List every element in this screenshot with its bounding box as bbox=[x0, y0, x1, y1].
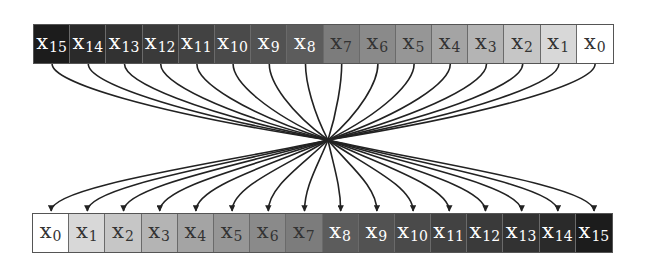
bottom-cell: x8 bbox=[323, 214, 359, 252]
cell-index: 9 bbox=[378, 229, 387, 243]
bottom-cell: x6 bbox=[250, 214, 286, 252]
cell-label: x bbox=[40, 221, 52, 242]
bottom-cell: x13 bbox=[503, 214, 539, 252]
cell-index: 15 bbox=[591, 229, 609, 243]
bottom-cell: x9 bbox=[359, 214, 395, 252]
connection-curve bbox=[88, 64, 328, 140]
cell-index: 4 bbox=[197, 229, 206, 243]
cell-index: 7 bbox=[306, 229, 315, 243]
bottom-cell: x4 bbox=[178, 214, 214, 252]
bottom-cell: x5 bbox=[214, 214, 250, 252]
bottom-cell: x15 bbox=[576, 214, 612, 252]
cell-index: 13 bbox=[519, 229, 537, 243]
cell-label: x bbox=[542, 221, 554, 242]
cell-label: x bbox=[433, 221, 445, 242]
bottom-cell: x10 bbox=[395, 214, 431, 252]
cell-label: x bbox=[293, 221, 305, 242]
bottom-cell: x14 bbox=[540, 214, 576, 252]
cell-index: 5 bbox=[233, 229, 242, 243]
cell-label: x bbox=[257, 221, 269, 242]
bottom-cell: x1 bbox=[69, 214, 105, 252]
bottom-cell: x2 bbox=[105, 214, 141, 252]
bottom-cell: x7 bbox=[286, 214, 322, 252]
cell-label: x bbox=[506, 221, 518, 242]
cell-index: 14 bbox=[555, 229, 573, 243]
cell-label: x bbox=[184, 221, 196, 242]
cell-index: 11 bbox=[446, 229, 464, 243]
bottom-row: x0 x1 x2 x3 x4 x5 x6 x7 x8 x9 x10 x11 x1… bbox=[32, 213, 613, 253]
connection-arrow bbox=[328, 140, 341, 211]
connection-curve bbox=[328, 64, 378, 140]
cell-index: 6 bbox=[270, 229, 279, 243]
cell-index: 3 bbox=[161, 229, 170, 243]
bottom-cell: x0 bbox=[33, 214, 69, 252]
cell-index: 8 bbox=[342, 229, 351, 243]
cell-label: x bbox=[76, 221, 88, 242]
cell-label: x bbox=[329, 221, 341, 242]
cell-index: 2 bbox=[125, 229, 134, 243]
cell-label: x bbox=[112, 221, 124, 242]
cell-label: x bbox=[221, 221, 233, 242]
cell-label: x bbox=[148, 221, 160, 242]
cell-index: 10 bbox=[410, 229, 428, 243]
cell-label: x bbox=[470, 221, 482, 242]
cell-label: x bbox=[579, 221, 591, 242]
bottom-cell: x3 bbox=[142, 214, 178, 252]
cell-index: 0 bbox=[53, 229, 62, 243]
connection-curve bbox=[306, 64, 329, 140]
bottom-cell: x11 bbox=[431, 214, 467, 252]
cell-index: 12 bbox=[482, 229, 500, 243]
cell-index: 1 bbox=[89, 229, 98, 243]
cell-label: x bbox=[397, 221, 409, 242]
connection-curve bbox=[328, 64, 450, 140]
bottom-cell: x12 bbox=[467, 214, 503, 252]
cell-label: x bbox=[365, 221, 377, 242]
